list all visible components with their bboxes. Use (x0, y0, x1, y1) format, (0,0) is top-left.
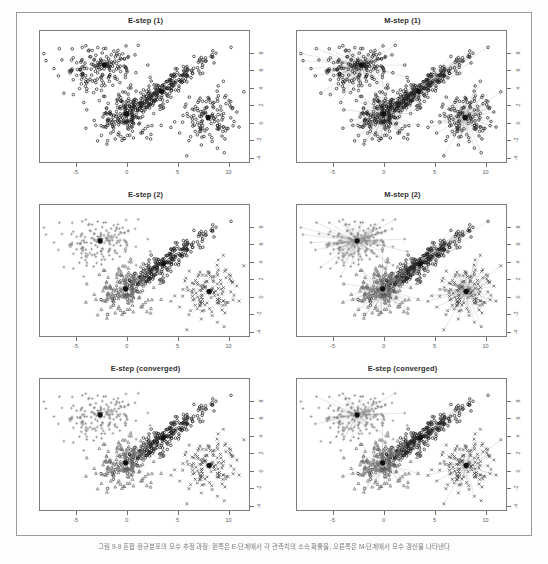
x-axis-tick (76, 337, 77, 341)
x-axis-tick (333, 511, 334, 515)
panel-e-step-1: E-step (1) -50510-4-202468 (17, 13, 274, 187)
y-axis-tick (507, 332, 511, 333)
y-axis-tick-label: 2 (514, 452, 520, 455)
y-axis-tick (507, 471, 511, 472)
x-axis-tick (229, 163, 230, 167)
y-axis-tick-label: 8 (257, 399, 263, 402)
y-axis-tick (250, 53, 254, 54)
y-axis-tick (250, 88, 254, 89)
y-axis-tick-label: 6 (514, 69, 520, 72)
x-axis-tick-label: 10 (226, 343, 232, 349)
y-axis-tick-label: 2 (514, 278, 520, 281)
x-axis-tick (435, 337, 436, 341)
data-points (300, 44, 503, 157)
x-axis-tick (333, 163, 334, 167)
y-axis-tick-label: 8 (514, 225, 520, 228)
x-axis-tick (127, 163, 128, 167)
x-axis-tick (384, 163, 385, 167)
x-axis-tick-label: 0 (125, 169, 128, 175)
y-axis-tick (250, 262, 254, 263)
figure-page: E-step (1) -50510-4-202468 M-step (1) -5… (0, 0, 548, 564)
y-axis-tick-label: 0 (514, 469, 520, 472)
x-axis-tick (229, 511, 230, 515)
y-axis-tick-label: 2 (514, 104, 520, 107)
data-points (43, 44, 246, 157)
plot-area: -50510-4-202468 (39, 30, 250, 163)
data-points (42, 392, 245, 505)
panel-grid: E-step (1) -50510-4-202468 M-step (1) -5… (17, 13, 531, 535)
scatter-plot (40, 31, 249, 162)
y-axis-tick (250, 314, 254, 315)
x-axis-tick-label: 10 (483, 343, 489, 349)
panel-e-step-converged-right: E-step (converged) -50510-4-202468 (274, 361, 531, 535)
y-axis-tick (250, 418, 254, 419)
y-axis-tick-label: -2 (257, 486, 263, 491)
x-axis-tick (384, 337, 385, 341)
y-axis-tick (507, 123, 511, 124)
y-axis-tick (507, 314, 511, 315)
y-axis-tick-label: 2 (257, 452, 263, 455)
x-axis-tick (178, 511, 179, 515)
y-axis-tick (507, 436, 511, 437)
panel-title: M-step (1) (274, 16, 531, 25)
y-axis-tick-label: 6 (514, 417, 520, 420)
x-axis-tick-label: 10 (226, 517, 232, 523)
x-axis-tick (486, 511, 487, 515)
x-axis-tick (178, 163, 179, 167)
y-axis-tick (250, 453, 254, 454)
x-axis-tick-label: 0 (382, 169, 385, 175)
x-axis-tick-label: 10 (483, 517, 489, 523)
x-axis-tick (333, 337, 334, 341)
y-axis-tick (507, 418, 511, 419)
y-axis-tick-label: -4 (514, 503, 520, 508)
x-axis-tick-label: 5 (433, 169, 436, 175)
plot-area: -50510-4-202468 (296, 30, 507, 163)
x-axis-tick (127, 337, 128, 341)
y-axis-tick-label: 0 (257, 295, 263, 298)
x-axis-tick (384, 511, 385, 515)
y-axis-tick (250, 506, 254, 507)
x-axis-tick-label: 0 (125, 517, 128, 523)
x-axis-tick-label: 0 (382, 343, 385, 349)
y-axis-tick (250, 297, 254, 298)
y-axis-tick-label: -4 (257, 503, 263, 508)
y-axis-tick (507, 297, 511, 298)
y-axis-tick (250, 140, 254, 141)
panel-title: E-step (1) (17, 16, 274, 25)
y-axis-tick-label: -2 (514, 312, 520, 317)
y-axis-tick (507, 53, 511, 54)
y-axis-tick-label: -2 (514, 138, 520, 143)
y-axis-tick-label: 8 (257, 51, 263, 54)
x-axis-tick-label: 0 (382, 517, 385, 523)
y-axis-tick-label: 2 (257, 104, 263, 107)
scatter-plot (40, 379, 249, 510)
y-axis-tick (250, 158, 254, 159)
scatter-plot (40, 205, 249, 336)
panel-e-step-converged-left: E-step (converged) -50510-4-202468 (17, 361, 274, 535)
y-axis-tick-label: 8 (514, 51, 520, 54)
data-points (42, 218, 245, 331)
y-axis-tick-label: 8 (514, 399, 520, 402)
x-axis-tick-label: 5 (176, 517, 179, 523)
panel-title: E-step (converged) (274, 364, 531, 373)
figure-frame: E-step (1) -50510-4-202468 M-step (1) -5… (16, 12, 532, 536)
y-axis-tick (507, 488, 511, 489)
x-axis-tick-label: -5 (73, 517, 78, 523)
y-axis-tick (250, 332, 254, 333)
x-axis-tick (435, 511, 436, 515)
y-axis-tick (507, 158, 511, 159)
x-axis-tick-label: 10 (483, 169, 489, 175)
plot-area: -50510-4-202468 (39, 204, 250, 337)
data-points (299, 218, 502, 331)
x-axis-tick-label: 5 (433, 343, 436, 349)
panel-title: M-step (2) (274, 190, 531, 199)
panel-title: E-step (converged) (17, 364, 274, 373)
plot-area: -50510-4-202468 (296, 204, 507, 337)
plot-area: -50510-4-202468 (296, 378, 507, 511)
y-axis-tick (507, 227, 511, 228)
y-axis-tick-label: -2 (514, 486, 520, 491)
x-axis-tick-label: 5 (176, 343, 179, 349)
y-axis-tick (507, 244, 511, 245)
y-axis-tick (250, 488, 254, 489)
y-axis-tick-label: 6 (257, 417, 263, 420)
